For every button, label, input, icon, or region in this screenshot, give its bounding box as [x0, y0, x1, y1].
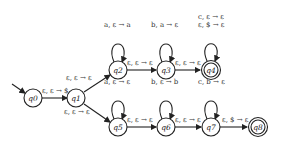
label-q4-loop-2: ε, $ → ε — [198, 21, 225, 29]
svg-text:q1: q1 — [71, 94, 81, 103]
label-q5-q6: ε, ε → ε — [127, 116, 153, 124]
loop-q2 — [112, 44, 124, 62]
label-q2-loop: a, ε → a — [104, 21, 131, 29]
loop-q6 — [160, 101, 172, 119]
label-q3-loop: b, a → ε — [151, 21, 178, 29]
pda-diagram: ε, ε → $ ε, ε → ε ε, ε → ε ε, ε → ε ε, ε… — [0, 0, 282, 147]
label-q2-q3: ε, ε → ε — [127, 59, 153, 67]
svg-text:q2: q2 — [113, 66, 123, 75]
svg-text:q3: q3 — [161, 66, 171, 75]
svg-text:q5: q5 — [113, 123, 123, 132]
state-q2: q2 — [109, 61, 127, 79]
svg-text:q0: q0 — [28, 94, 38, 103]
state-q1: q1 — [67, 89, 85, 107]
start-arrow — [12, 84, 25, 93]
label-q7-q8: ε, $ → ε — [222, 116, 249, 124]
svg-text:q7: q7 — [206, 123, 216, 132]
state-q0: q0 — [24, 89, 42, 107]
svg-text:q6: q6 — [161, 123, 171, 132]
label-q0-q1: ε, ε → $ — [42, 87, 68, 95]
state-q4: q4 — [202, 61, 221, 80]
loop-q7 — [205, 101, 217, 119]
svg-text:q8: q8 — [253, 123, 263, 132]
loop-q4 — [205, 44, 217, 61]
state-q7: q7 — [202, 118, 220, 136]
label-q3-q4: ε, ε → ε — [175, 59, 201, 67]
loop-q3 — [160, 44, 172, 62]
label-q1-q2: ε, ε → ε — [66, 74, 92, 82]
state-q8: q8 — [249, 118, 268, 137]
state-q3: q3 — [157, 61, 175, 79]
label-q1-q5: ε, ε → ε — [64, 108, 90, 116]
state-q5: q5 — [109, 118, 127, 136]
state-q6: q6 — [157, 118, 175, 136]
label-q4-loop-1: c, ε → ε — [198, 13, 224, 21]
label-q6-q7: ε, ε → ε — [175, 116, 201, 124]
loop-q5 — [112, 101, 124, 119]
svg-text:q4: q4 — [206, 66, 216, 75]
